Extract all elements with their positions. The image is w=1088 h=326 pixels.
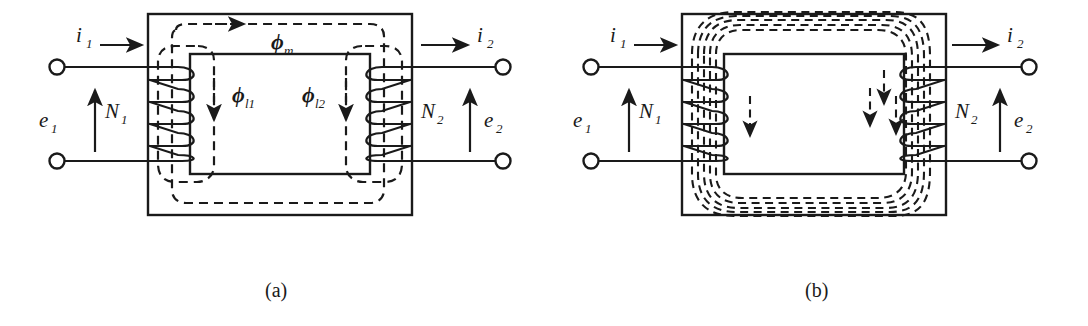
- primary-bottom-terminal-a: [50, 154, 65, 169]
- label-e1-a: e 1: [39, 108, 58, 136]
- flux-line-5-b: [692, 12, 930, 216]
- svg-text:1: 1: [620, 36, 627, 51]
- primary-top-terminal-a: [50, 60, 65, 75]
- transformer-figure-svg: i 1 i 2 e 1 e 2 N 1 N 2 ϕ m ϕ l1: [0, 0, 1088, 326]
- primary-coil-b: [684, 67, 728, 161]
- label-N1-a: N 1: [104, 99, 128, 127]
- flux-line-2-b: [710, 25, 912, 203]
- label-N2-b: N 2: [954, 99, 978, 127]
- label-flux-mutual-a: ϕ m: [271, 29, 293, 58]
- panel-b: i 1 i 2 e 1 e 2 N 1 N 2 (b): [573, 12, 1037, 302]
- svg-text:2: 2: [487, 36, 494, 51]
- flux-line-3-b: [704, 20, 918, 208]
- svg-text:1: 1: [655, 112, 662, 127]
- svg-text:2: 2: [1017, 36, 1024, 51]
- secondary-coil-a: [366, 67, 410, 161]
- label-i2-b: i 2: [1007, 23, 1024, 51]
- core-window-rect-a: [190, 54, 370, 174]
- label-e2-b: e 2: [1014, 108, 1033, 136]
- svg-text:ϕ: ϕ: [271, 29, 284, 54]
- secondary-bottom-terminal-b: [1022, 154, 1037, 169]
- svg-text:e: e: [573, 108, 582, 132]
- flux-direction-arrows-b: [750, 70, 896, 136]
- svg-text:N: N: [104, 99, 120, 123]
- label-i2-a: i 2: [477, 23, 494, 51]
- svg-text:e: e: [39, 108, 48, 132]
- svg-text:i: i: [477, 23, 483, 47]
- label-e2-a: e 2: [484, 108, 503, 136]
- caption-a: (a): [265, 279, 287, 302]
- figure-canvas: i 1 i 2 e 1 e 2 N 1 N 2 ϕ m ϕ l1: [0, 0, 1088, 326]
- label-i1-a: i 1: [76, 23, 93, 51]
- svg-text:l2: l2: [315, 96, 326, 111]
- panel-a: i 1 i 2 e 1 e 2 N 1 N 2 ϕ m ϕ l1: [39, 14, 511, 302]
- svg-text:2: 2: [1026, 121, 1033, 136]
- caption-b: (b): [805, 279, 828, 302]
- primary-coil-a: [150, 67, 194, 161]
- label-i1-b: i 1: [610, 23, 627, 51]
- primary-bottom-terminal-b: [584, 154, 599, 169]
- svg-text:1: 1: [121, 112, 128, 127]
- label-e1-b: e 1: [573, 108, 592, 136]
- label-N2-a: N 2: [420, 99, 444, 127]
- primary-top-terminal-b: [584, 60, 599, 75]
- secondary-top-terminal-a: [496, 60, 511, 75]
- svg-text:e: e: [484, 108, 493, 132]
- svg-text:m: m: [284, 43, 293, 58]
- svg-text:i: i: [610, 23, 616, 47]
- svg-text:N: N: [420, 99, 436, 123]
- svg-text:ϕ: ϕ: [232, 82, 245, 107]
- label-flux-leak2-a: ϕ l2: [302, 82, 326, 111]
- svg-text:e: e: [1014, 108, 1023, 132]
- svg-text:1: 1: [86, 36, 93, 51]
- svg-text:N: N: [954, 99, 970, 123]
- svg-text:2: 2: [496, 121, 503, 136]
- secondary-top-terminal-b: [1022, 60, 1037, 75]
- svg-text:1: 1: [51, 121, 58, 136]
- svg-text:i: i: [76, 23, 82, 47]
- svg-text:N: N: [638, 99, 654, 123]
- flux-line-4-b: [698, 16, 924, 212]
- label-N1-b: N 1: [638, 99, 662, 127]
- svg-text:l1: l1: [245, 96, 255, 111]
- svg-text:1: 1: [585, 121, 592, 136]
- secondary-bottom-terminal-a: [496, 154, 511, 169]
- svg-text:2: 2: [971, 112, 978, 127]
- svg-text:ϕ: ϕ: [302, 82, 315, 107]
- label-flux-leak1-a: ϕ l1: [232, 82, 255, 111]
- mutual-flux-bundle-b: [692, 12, 930, 216]
- svg-text:i: i: [1007, 23, 1013, 47]
- svg-text:2: 2: [437, 112, 444, 127]
